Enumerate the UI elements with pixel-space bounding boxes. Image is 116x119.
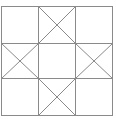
diagonal-crosses (2, 7, 113, 116)
outer-border (2, 7, 113, 116)
grid-lines (2, 7, 113, 116)
star-grid-diagram (0, 0, 116, 119)
